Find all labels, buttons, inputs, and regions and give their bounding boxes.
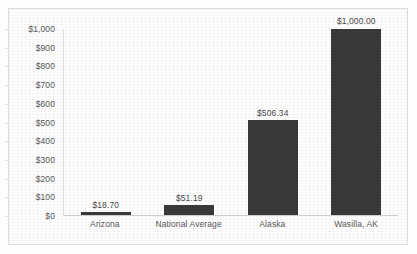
y-axis-tick-mark	[5, 160, 9, 161]
y-axis-tick-mark	[5, 29, 9, 30]
bar-value-label: $51.19	[176, 193, 203, 205]
y-axis-tick-label: $800	[36, 61, 55, 71]
y-axis-tick-mark	[5, 66, 9, 67]
y-axis-tick-mark	[5, 179, 9, 180]
x-axis: ArizonaNational AverageAlaskaWasilla, AK	[63, 219, 398, 229]
plot-area: $18.70$51.19$506.34$1,000.00	[63, 29, 398, 216]
y-axis-tick-label: $700	[36, 80, 55, 90]
y-axis-tick-label: $300	[36, 155, 55, 165]
y-axis-tick-label: $900	[36, 43, 55, 53]
bar-group[interactable]: $1,000.00	[315, 29, 399, 215]
bar-value-label: $506.34	[257, 108, 288, 120]
bar-group[interactable]: $18.70	[64, 29, 148, 215]
chart-screenshot-canvas: $1,000$900$800$700$600$500$400$300$200$1…	[0, 0, 417, 254]
bar-rect[interactable]	[331, 29, 381, 215]
y-axis-tick-label: $1,000	[28, 24, 55, 34]
y-axis-tick-label: $600	[36, 99, 55, 109]
bar-value-label: $1,000.00	[337, 16, 376, 28]
x-axis-category-label: Wasilla, AK	[314, 219, 398, 229]
chart-frame: $1,000$900$800$700$600$500$400$300$200$1…	[8, 8, 408, 245]
cut-off-text-sliver	[10, 0, 310, 3]
bar-value-label: $18.70	[92, 200, 119, 212]
x-axis-category-label: National Average	[147, 219, 231, 229]
y-axis-tick-label: $100	[36, 192, 55, 202]
y-axis-tick-mark	[5, 48, 9, 49]
x-axis-category-label: Alaska	[231, 219, 315, 229]
y-axis-tick-mark	[5, 104, 9, 105]
y-axis-tick-mark	[5, 197, 9, 198]
y-axis-tick-mark	[5, 85, 9, 86]
y-axis-tick-label: $400	[36, 136, 55, 146]
bar-rect[interactable]	[81, 212, 131, 215]
bar-group[interactable]: $51.19	[148, 29, 232, 215]
x-axis-category-label: Arizona	[63, 219, 147, 229]
bar-rect[interactable]	[164, 205, 214, 215]
y-axis: $1,000$900$800$700$600$500$400$300$200$1…	[9, 29, 61, 216]
y-axis-tick-label: $200	[36, 174, 55, 184]
y-axis-tick-mark	[5, 123, 9, 124]
y-axis-tick-label: $0	[45, 211, 55, 221]
bar-rect[interactable]	[248, 120, 298, 215]
y-axis-tick-mark	[5, 216, 9, 217]
bars-layer: $18.70$51.19$506.34$1,000.00	[64, 29, 398, 215]
y-axis-tick-mark	[5, 141, 9, 142]
bar-group[interactable]: $506.34	[231, 29, 315, 215]
y-axis-tick-label: $500	[36, 118, 55, 128]
